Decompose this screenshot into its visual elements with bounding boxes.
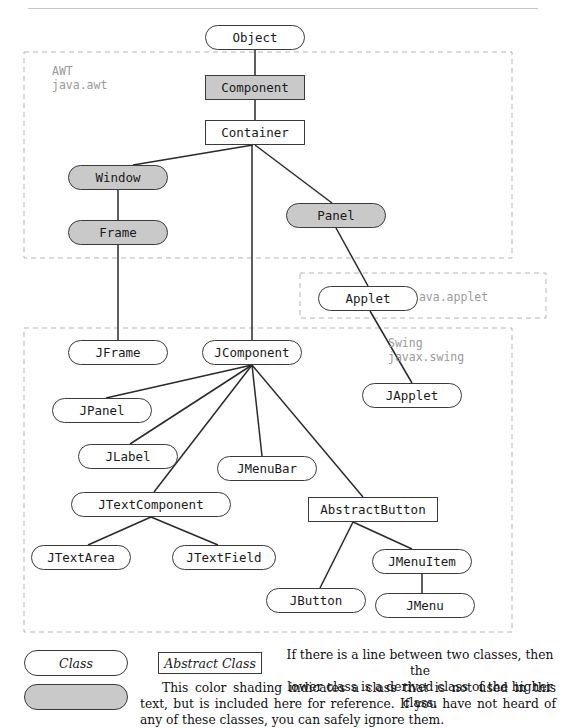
- class-node-jmenubar[interactable]: JMenuBar: [217, 456, 317, 481]
- class-node-label: Applet: [345, 291, 390, 306]
- edge-jcomponent-to-jpanel: [106, 365, 252, 398]
- class-node-label: Container: [221, 125, 289, 140]
- class-node-label: JButton: [290, 593, 343, 608]
- class-node-japplet[interactable]: JApplet: [362, 383, 462, 408]
- edge-abstractbutton-to-jmenuitem: [353, 522, 412, 549]
- class-node-jtextarea[interactable]: JTextArea: [31, 545, 131, 570]
- edge-container-to-panel: [255, 145, 332, 203]
- legend-class-label: Class: [59, 656, 93, 671]
- class-node-container[interactable]: Container: [205, 120, 305, 145]
- edge-panel-to-applet: [336, 228, 368, 286]
- class-node-jlabel[interactable]: JLabel: [78, 444, 178, 469]
- class-node-label: Window: [95, 170, 140, 185]
- class-node-jtextcomponent[interactable]: JTextComponent: [71, 492, 231, 517]
- class-node-jbutton[interactable]: JButton: [266, 588, 366, 613]
- class-node-label: JComponent: [214, 345, 289, 360]
- class-node-label: Panel: [317, 208, 355, 223]
- edge-container-to-window: [133, 145, 253, 165]
- class-node-label: JTextField: [186, 550, 261, 565]
- class-node-label: JPanel: [79, 403, 124, 418]
- class-node-label: JFrame: [95, 345, 140, 360]
- class-node-object[interactable]: Object: [205, 25, 305, 50]
- package-label-applet: java.applet: [412, 290, 488, 304]
- class-node-label: JMenu: [406, 598, 444, 613]
- class-node-jmenu[interactable]: JMenu: [375, 593, 475, 618]
- class-node-component[interactable]: Component: [205, 75, 305, 100]
- class-node-label: JTextComponent: [98, 497, 203, 512]
- class-node-label: JTextArea: [47, 550, 115, 565]
- class-node-label: JMenuItem: [388, 554, 456, 569]
- class-node-window[interactable]: Window: [68, 165, 168, 190]
- class-node-frame[interactable]: Frame: [68, 220, 168, 245]
- legend-abstract-shape: Abstract Class: [158, 652, 262, 674]
- header-rule: [28, 8, 538, 9]
- class-node-jmenuitem[interactable]: JMenuItem: [372, 549, 472, 574]
- class-node-label: JLabel: [105, 449, 150, 464]
- class-node-label: AbstractButton: [320, 502, 425, 517]
- class-node-jcomponent[interactable]: JComponent: [202, 340, 302, 365]
- class-node-label: Frame: [99, 225, 137, 240]
- class-node-label: JMenuBar: [237, 461, 297, 476]
- class-node-applet[interactable]: Applet: [318, 286, 418, 311]
- edge-abstractbutton-to-jbutton: [320, 522, 353, 588]
- class-node-panel[interactable]: Panel: [286, 203, 386, 228]
- edge-jcomponent-to-jmenubar: [252, 365, 262, 456]
- legend-abstract-label: Abstract Class: [164, 656, 256, 671]
- class-node-label: JApplet: [386, 388, 439, 403]
- package-label-swing: Swing javax.swing: [388, 336, 464, 364]
- legend-shaded-shape: [24, 684, 128, 710]
- class-node-label: Component: [221, 80, 289, 95]
- legend-class-shape: Class: [24, 650, 128, 676]
- edge-jtextcomponent-to-jtextfield: [151, 517, 218, 545]
- class-node-jpanel[interactable]: JPanel: [52, 398, 152, 423]
- package-label-awt: AWT java.awt: [52, 64, 107, 92]
- class-node-label: Object: [232, 30, 277, 45]
- legend-shading-note: This color shading indicates a class tha…: [140, 680, 556, 728]
- edge-jtextcomponent-to-jtextarea: [88, 517, 151, 545]
- class-node-jtextfield[interactable]: JTextField: [172, 545, 276, 570]
- class-node-jframe[interactable]: JFrame: [68, 340, 168, 365]
- class-node-abstractbutton[interactable]: AbstractButton: [308, 497, 438, 522]
